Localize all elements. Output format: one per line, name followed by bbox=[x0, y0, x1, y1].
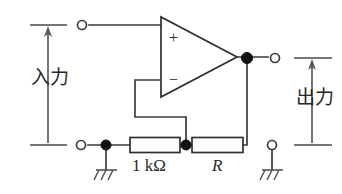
terminal-input-bottom[interactable] bbox=[77, 141, 86, 150]
ground-input-hatch-2 bbox=[101, 170, 106, 180]
resistor-1k-label: 1 kΩ bbox=[132, 157, 166, 174]
terminal-output-top[interactable] bbox=[271, 54, 280, 63]
wire-output-to-resistor-r bbox=[243, 58, 247, 145]
ground-output-hatch-1 bbox=[260, 170, 265, 180]
node-output bbox=[242, 53, 253, 64]
terminal-input-top[interactable] bbox=[78, 21, 87, 30]
opamp-plus-sign: + bbox=[169, 30, 178, 46]
resistor-r-body bbox=[192, 138, 243, 153]
node-feedback-divider bbox=[181, 140, 191, 150]
ground-input-hatch-1 bbox=[94, 170, 99, 180]
terminal-output-bottom[interactable] bbox=[268, 141, 277, 150]
circuit-figure: + − 入力 出力 1 kΩ R bbox=[0, 0, 342, 194]
ground-output-hatch-3 bbox=[274, 170, 279, 180]
ground-output-side bbox=[260, 150, 283, 180]
resistor-r-label: R bbox=[212, 157, 222, 174]
ground-input-hatch-3 bbox=[108, 170, 113, 180]
output-label: 出力 bbox=[296, 88, 334, 107]
opamp-minus-sign: − bbox=[169, 72, 178, 88]
ground-output-hatch-2 bbox=[267, 170, 272, 180]
node-input-ground bbox=[101, 140, 111, 150]
input-label: 入力 bbox=[31, 68, 69, 87]
resistor-1k-body bbox=[130, 138, 180, 153]
